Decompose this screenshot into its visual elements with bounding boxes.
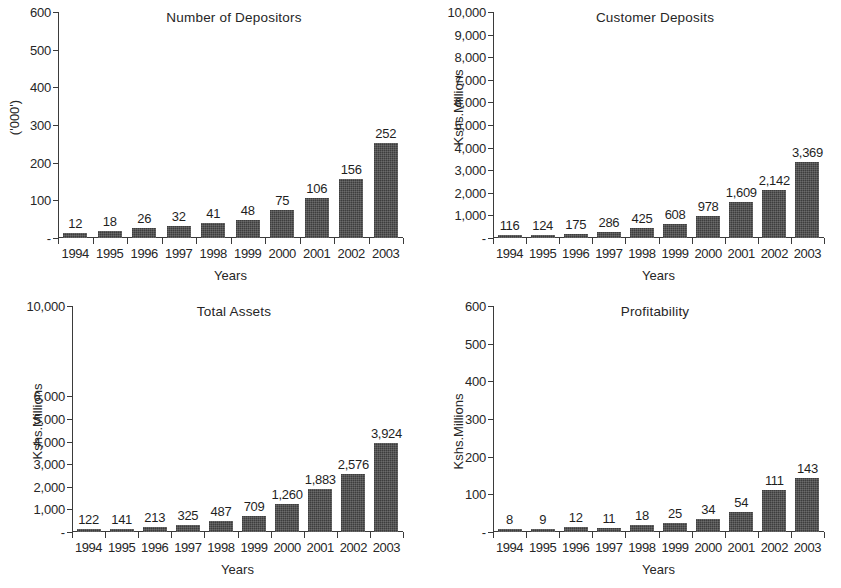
x-tick-mark [493,532,494,538]
bar [308,489,332,532]
bar-group: 1,8832001 [304,306,337,532]
x-category-label: 1994 [496,246,523,261]
y-tick-label: 8,000 [454,50,486,65]
bar [305,198,329,238]
x-tick-mark [231,238,232,244]
x-category-label: 1996 [562,246,589,261]
bar-value-label: 8 [506,512,513,527]
bar-value-label: 111 [765,473,784,488]
x-category-label: 1998 [628,540,655,555]
plot-area: -100200300400500600 12199418199526199632… [58,12,403,238]
x-tick-mark [791,238,792,244]
bar-value-label: 11 [602,511,615,526]
bar-value-label: 75 [275,193,289,208]
bar [242,516,266,532]
x-category-label: 1994 [62,246,89,261]
x-tick-mark [559,532,560,538]
x-tick-mark [592,532,593,538]
bar-series: 1221994141199521319963251997487199870919… [72,306,403,532]
x-category-label: 1995 [96,246,123,261]
x-axis-title: Years [58,268,403,283]
y-tick-label: 400 [30,80,51,95]
x-axis-title: Years [493,562,824,577]
x-category-label: 1997 [174,540,201,555]
bar-value-label: 425 [632,211,653,226]
y-tick-label: 10,000 [447,5,486,20]
bar-value-label: 3,369 [792,145,823,160]
bar-group: 4251998 [625,12,658,238]
bar-group: 3,9242003 [370,306,403,532]
y-tick-label: 2,000 [33,479,65,494]
x-axis-title: Years [493,268,824,283]
x-tick-mark [725,238,726,244]
bar-group: 3251997 [171,306,204,532]
bar [110,529,134,532]
bar-series: 1161994124199517519962861997425199860819… [493,12,824,238]
bar [663,224,687,238]
bar-value-label: 26 [137,211,151,226]
bar [270,210,294,238]
x-category-label: 1994 [75,540,102,555]
plot-area: -100200300400500600 81994919951219961119… [493,306,824,532]
x-tick-mark [171,532,172,538]
bar [630,525,654,532]
bar-group: 342000 [692,306,725,532]
x-category-label: 1997 [595,246,622,261]
x-category-label: 2003 [794,540,821,555]
bar-value-label: 18 [103,214,117,229]
bar-group: 321997 [162,12,197,238]
x-tick-mark [625,532,626,538]
bar-group: 91995 [526,306,559,532]
y-tick-label: 7,000 [454,72,486,87]
y-tick-label: 400 [465,374,486,389]
bar-value-label: 12 [68,216,82,231]
bar-group: 542001 [725,306,758,532]
bar-value-label: 34 [701,502,715,517]
x-tick-mark [659,532,660,538]
plot-area: -1,0002,0003,0004,0005,0006,0007,0008,00… [493,12,824,238]
x-category-label: 2002 [340,540,367,555]
bar [374,443,398,532]
x-category-label: 2000 [273,540,300,555]
chart-panel-profitability: Profitability Kshs.Millions -10020030040… [421,294,841,588]
y-tick-label: 6,000 [33,389,65,404]
x-tick-mark [824,532,825,538]
x-tick-mark [370,532,371,538]
x-category-label: 1999 [661,246,688,261]
bar [498,235,522,238]
bar [143,527,167,532]
bar [167,226,191,238]
x-tick-mark [300,238,301,244]
y-tick-label: - [482,231,486,246]
bar-group: 181995 [93,12,128,238]
y-tick-label: 5,000 [454,118,486,133]
bar [531,235,555,238]
y-axis-title: ('000') [7,78,22,158]
bar-group: 411998 [196,12,231,238]
x-tick-mark [493,238,494,244]
y-tick-label: 600 [465,299,486,314]
bar-value-label: 122 [78,512,99,527]
bar [696,519,720,532]
x-tick-mark [592,238,593,244]
x-category-label: 2000 [694,246,721,261]
bar-value-label: 2,142 [759,173,790,188]
bar-value-label: 608 [665,207,686,222]
x-tick-mark [824,238,825,244]
x-tick-mark [758,532,759,538]
bar [630,228,654,238]
bar-group: 2,5762002 [337,306,370,532]
bar-group: 7091999 [238,306,271,532]
bar [564,527,588,532]
x-category-label: 1996 [562,540,589,555]
bar [531,529,555,532]
bar-value-label: 175 [565,217,586,232]
bar-group: 1221994 [72,306,105,532]
charts-figure: Number of Depositors ('000') -1002003004… [0,0,841,588]
x-category-label: 2001 [728,540,755,555]
bar [132,228,156,238]
y-tick-label: 1,000 [454,208,486,223]
bar-group: 1,6092001 [725,12,758,238]
bar [374,143,398,238]
x-tick-mark [271,532,272,538]
